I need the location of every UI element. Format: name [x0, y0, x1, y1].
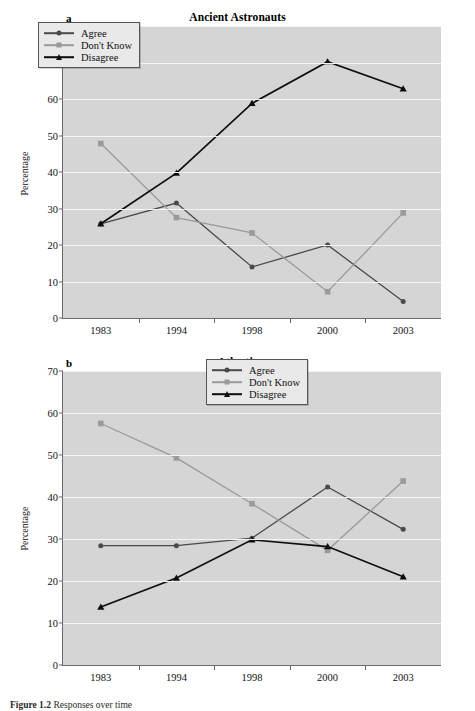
y-tick-label: 20 [48, 576, 59, 587]
y-tick-label: 60 [48, 94, 59, 105]
y-axis-label-a: Percentage [19, 134, 30, 214]
legend-item: Disagree [212, 388, 300, 400]
y-tick-label: 10 [48, 276, 59, 287]
gridline [63, 209, 441, 210]
plot-area-b: 01020304050607019831994199820002003 [62, 371, 441, 666]
gridline [63, 497, 441, 498]
data-point [174, 543, 179, 548]
legend-swatch-square-icon [44, 40, 74, 50]
gridline [63, 282, 441, 283]
data-point [98, 543, 103, 548]
chart-panel-a: a Ancient Astronauts Percentage 01020304… [0, 0, 475, 352]
y-tick-label: 40 [48, 167, 59, 178]
x-tick-label: 1994 [166, 672, 187, 683]
gridline [63, 539, 441, 540]
x-tick-mark [214, 318, 215, 323]
data-point [174, 201, 179, 206]
legend-label: Disagree [81, 52, 118, 63]
legend-item: Don't Know [212, 376, 300, 388]
data-point [174, 215, 180, 221]
data-point [249, 230, 255, 236]
y-tick-label: 40 [48, 492, 59, 503]
gridline [63, 581, 441, 582]
figure-caption-label: Figure 1.2 [10, 700, 51, 710]
x-tick-mark [139, 318, 140, 323]
data-point [401, 299, 406, 304]
x-tick-mark [290, 318, 291, 323]
x-tick-label: 2000 [317, 672, 338, 683]
y-tick-mark [59, 318, 63, 319]
gridline [63, 99, 441, 100]
legend-label: Disagree [249, 389, 286, 400]
plot-area-a: 0102030405060708019831994199820002003 [62, 26, 441, 319]
y-axis-label-b: Percentage [19, 489, 30, 569]
data-point [400, 210, 406, 216]
x-tick-mark [290, 665, 291, 670]
legend-item: Don't Know [44, 39, 132, 51]
legend-label: Agree [81, 28, 107, 39]
chart-panel-b: b Atlantis Percentage 010203040506070198… [0, 355, 475, 695]
data-point [250, 264, 255, 269]
y-tick-label: 30 [48, 534, 59, 545]
x-tick-label: 1983 [90, 672, 111, 683]
gridline [63, 413, 441, 414]
data-point [98, 421, 104, 427]
y-tick-label: 60 [48, 408, 59, 419]
y-tick-mark [59, 623, 63, 624]
legend-a: AgreeDon't KnowDisagree [38, 22, 140, 68]
y-tick-label: 70 [48, 366, 59, 377]
data-point [325, 289, 331, 295]
y-tick-mark [59, 581, 63, 582]
legend-item: Agree [212, 364, 300, 376]
legend-item: Agree [44, 27, 132, 39]
y-tick-mark [59, 99, 63, 100]
figure-caption: Figure 1.2 Responses over time [10, 700, 470, 711]
legend-label: Don't Know [249, 377, 300, 388]
x-tick-mark [365, 318, 366, 323]
x-tick-label: 1994 [166, 325, 187, 336]
data-point [325, 484, 330, 489]
y-tick-mark [59, 539, 63, 540]
series-line-don-t-know [101, 424, 403, 551]
x-tick-label: 1983 [90, 325, 111, 336]
y-tick-label: 0 [53, 313, 58, 324]
y-tick-mark [59, 208, 63, 209]
data-point [401, 527, 406, 532]
legend-swatch-triangle-icon [212, 389, 242, 399]
y-tick-mark [59, 371, 63, 372]
y-tick-mark [59, 245, 63, 246]
y-tick-mark [59, 281, 63, 282]
y-tick-label: 50 [48, 450, 59, 461]
legend-swatch-circle-icon [212, 365, 242, 375]
legend-label: Agree [249, 365, 275, 376]
y-tick-label: 10 [48, 618, 59, 629]
x-tick-label: 2003 [393, 672, 414, 683]
legend-swatch-triangle-icon [44, 52, 74, 62]
gridline [63, 455, 441, 456]
x-tick-label: 1998 [242, 672, 263, 683]
series-line-agree [101, 203, 403, 302]
x-tick-label: 2003 [393, 325, 414, 336]
y-tick-label: 0 [53, 660, 58, 671]
series-line-disagree [101, 540, 403, 607]
data-point [249, 501, 255, 507]
legend-b: AgreeDon't KnowDisagree [206, 359, 308, 405]
y-tick-mark [59, 455, 63, 456]
figure-caption-text: Responses over time [53, 700, 132, 710]
legend-item: Disagree [44, 51, 132, 63]
legend-swatch-square-icon [212, 377, 242, 387]
data-point [98, 141, 104, 147]
y-tick-mark [59, 172, 63, 173]
legend-label: Don't Know [81, 40, 132, 51]
series-line-don-t-know [101, 144, 403, 292]
y-tick-mark [59, 665, 63, 666]
gridline [63, 136, 441, 137]
x-tick-label: 1998 [242, 325, 263, 336]
series-line-disagree [101, 62, 403, 224]
x-tick-mark [139, 665, 140, 670]
x-tick-mark [214, 665, 215, 670]
x-tick-label: 2000 [317, 325, 338, 336]
gridline [63, 172, 441, 173]
series-layer-b [63, 371, 441, 665]
x-tick-mark [365, 665, 366, 670]
